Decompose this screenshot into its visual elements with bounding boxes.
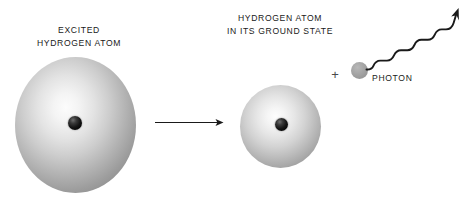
photon-wave-arrow (367, 8, 459, 70)
hydrogen-photon-emission-diagram: EXCITED HYDROGEN ATOM HYDROGEN ATOM IN I… (0, 0, 472, 201)
transition-arrow (155, 119, 224, 126)
ground-atom-label: HYDROGEN ATOM IN ITS GROUND STATE (200, 12, 360, 38)
excited-atom-label-line1: EXCITED (0, 24, 158, 37)
excited-atom-label-line2: HYDROGEN ATOM (0, 37, 158, 50)
excited-atom-label: EXCITED HYDROGEN ATOM (0, 24, 158, 50)
ground-atom-label-line1: HYDROGEN ATOM (200, 12, 360, 25)
photon-label: PHOTON (340, 72, 458, 85)
excited-atom-nucleus-icon (68, 116, 82, 130)
ground-atom-label-line2: IN ITS GROUND STATE (200, 25, 360, 38)
ground-atom-nucleus-icon (275, 118, 288, 131)
